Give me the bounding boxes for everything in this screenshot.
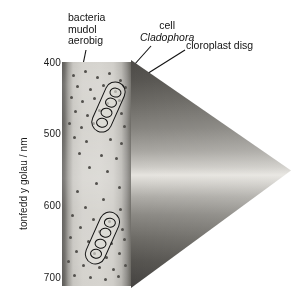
chloroplast-disc: [99, 227, 112, 239]
figure-canvas: bacteria mudol aerobig cell Cladophora c…: [0, 0, 298, 298]
light-beam: [131, 60, 291, 288]
bacterium: [123, 238, 126, 241]
bacterium: [93, 97, 96, 100]
tick-label-500: 500: [27, 128, 61, 139]
bacterium: [88, 166, 91, 169]
bacterium: [84, 206, 87, 209]
bacterium: [100, 154, 103, 157]
beam-highlight: [131, 60, 291, 288]
bacterium: [118, 186, 121, 189]
bacterium: [95, 182, 98, 185]
bacterium: [85, 140, 88, 143]
bacterium: [98, 266, 101, 269]
tick-label-600: 600: [27, 200, 61, 211]
bacterium: [124, 264, 127, 267]
bacterium: [76, 190, 79, 193]
bacterium: [104, 278, 107, 281]
axis-title: tonfedd y golau / nm: [18, 137, 29, 230]
specimen-panel: [62, 62, 131, 286]
chloroplast-disc: [95, 117, 108, 129]
tick-label-400: 400: [27, 57, 61, 68]
chloroplast-disc: [89, 248, 102, 260]
bacterium: [108, 72, 111, 75]
tick-label-700: 700: [27, 272, 61, 283]
